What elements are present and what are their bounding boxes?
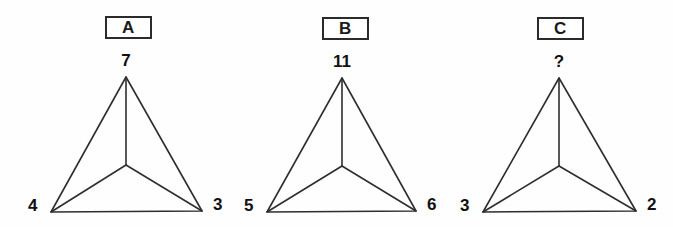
figure-c: C?32 (0, 0, 673, 227)
triangle-shape-c (0, 0, 673, 227)
spoke-to-bottom-left (483, 166, 559, 212)
spoke-to-bottom-right (559, 166, 636, 211)
puzzle-canvas: A743B1156C?32 (0, 0, 673, 227)
